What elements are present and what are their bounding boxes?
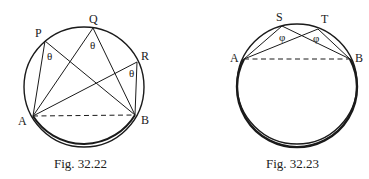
- circle: [24, 27, 144, 147]
- label-b: B: [355, 51, 363, 65]
- line-qa: [33, 28, 93, 116]
- label-t: T: [321, 12, 329, 26]
- label-a: A: [230, 51, 239, 65]
- minor-arc-ab: [33, 115, 135, 144]
- angle-theta-r: θ: [129, 67, 134, 79]
- caption-fig-32-23: Fig. 32.23: [266, 156, 319, 171]
- line-sa: [244, 26, 282, 59]
- label-p: P: [35, 26, 42, 40]
- label-b: B: [141, 113, 149, 127]
- label-s: S: [276, 10, 283, 24]
- line-tb: [318, 29, 350, 59]
- angle-phi-s: φ: [279, 31, 285, 43]
- label-r: R: [141, 49, 149, 63]
- line-ra: [33, 62, 137, 116]
- circle: [237, 24, 357, 144]
- figure-32-22: P Q R A B θ θ θ Fig. 32.22: [18, 12, 149, 171]
- major-arc-ab: [237, 59, 357, 147]
- chord-ab-dashed: [33, 115, 135, 116]
- diagram-canvas: P Q R A B θ θ θ Fig. 32.22 S T A B φ φ F…: [0, 0, 369, 179]
- angle-phi-t: φ: [313, 32, 319, 44]
- figure-32-23: S T A B φ φ Fig. 32.23: [230, 10, 363, 171]
- angle-theta-p: θ: [47, 50, 52, 62]
- label-q: Q: [89, 12, 98, 26]
- line-rb: [135, 62, 137, 115]
- caption-fig-32-22: Fig. 32.22: [54, 156, 107, 171]
- label-a: A: [18, 114, 27, 128]
- angle-theta-q: θ: [90, 39, 95, 51]
